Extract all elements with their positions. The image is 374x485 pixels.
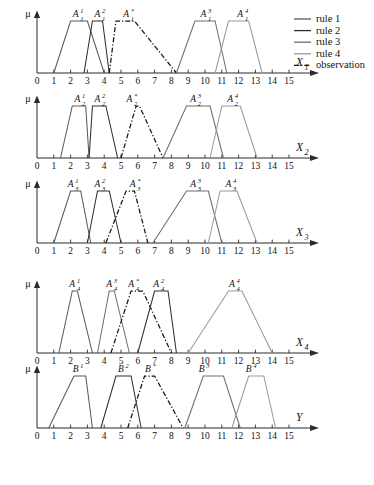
- fuzzy-set-superscript: 3: [197, 177, 202, 184]
- fuzzy-set-label: A: [189, 179, 196, 189]
- y-axis-arrow: [34, 366, 40, 374]
- membership-curve: [232, 376, 276, 428]
- fuzzy-set-label: B: [118, 364, 124, 374]
- x-axis-tick-label: 3: [85, 356, 90, 366]
- x-axis-arrow: [310, 155, 319, 161]
- x-axis-tick-label: 4: [102, 76, 107, 86]
- fuzzy-set-subscript: 1: [245, 15, 248, 22]
- x-axis-tick-label: 11: [217, 161, 226, 171]
- x-axis-variable-label: X: [295, 226, 304, 238]
- fuzzy-set-label: A: [122, 9, 129, 19]
- x-axis-tick-label: 14: [267, 161, 277, 171]
- fuzzy-set-label: B: [246, 364, 252, 374]
- membership-curve: [61, 106, 90, 158]
- panel-x3: μ0123456789101112131415X3A13A23A*3A33A43: [25, 177, 319, 256]
- x-axis-tick-label: 1: [51, 431, 56, 441]
- fuzzy-set-label: A: [127, 279, 134, 289]
- panel-x2: μ0123456789101112131415X2A12A22A*2A32A42: [25, 92, 319, 171]
- x-axis-tick-label: 8: [169, 431, 174, 441]
- x-axis-tick-label: 3: [85, 161, 90, 171]
- x-axis-tick-label: 8: [169, 356, 174, 366]
- x-axis-tick-label: 1: [51, 356, 56, 366]
- x-axis-variable-label: X: [295, 336, 304, 348]
- fuzzy-set-superscript: 4: [233, 177, 237, 184]
- fuzzy-set-superscript: *: [131, 7, 135, 14]
- fuzzy-set-label: A: [129, 179, 136, 189]
- x-axis-tick-label: 10: [200, 246, 210, 256]
- fuzzy-set-label: A: [68, 279, 75, 289]
- fuzzy-set-subscript: 3: [136, 185, 141, 192]
- mu-axis-label: μ: [25, 93, 30, 104]
- membership-curve: [97, 291, 129, 353]
- x-axis-tick-label: 7: [152, 431, 157, 441]
- x-axis-tick-label: 6: [135, 161, 140, 171]
- x-axis-tick-label: 7: [152, 161, 157, 171]
- x-axis-tick-label: 1: [51, 246, 56, 256]
- fuzzy-set-superscript: 2: [102, 177, 106, 184]
- fuzzy-set-subscript: 3: [74, 185, 79, 192]
- fuzzy-set-superscript: *: [134, 92, 138, 99]
- legend-label: observation: [316, 59, 366, 70]
- fuzzy-set-label: A: [67, 179, 74, 189]
- mu-axis-label: μ: [25, 278, 30, 289]
- fuzzy-set-label: A: [73, 94, 80, 104]
- mu-axis-label: μ: [25, 178, 30, 189]
- x-axis-tick-label: 8: [169, 161, 174, 171]
- fuzzy-set-label: A: [125, 94, 132, 104]
- fuzzy-membership-figure: μ0123456789101112131415X1A11A21A*1A31A41…: [0, 0, 374, 485]
- panel-x1: μ0123456789101112131415X1A11A21A*1A31A41: [25, 7, 319, 86]
- figure-canvas: μ0123456789101112131415X1A11A21A*1A31A41…: [0, 0, 374, 485]
- x-axis-tick-label: 11: [217, 356, 226, 366]
- x-axis-variable-subscript: 3: [304, 233, 309, 242]
- x-axis-tick-label: 2: [68, 161, 73, 171]
- x-axis-tick-label: 9: [186, 246, 191, 256]
- x-axis-variable-subscript: 2: [305, 148, 309, 157]
- x-axis-tick-label: 4: [102, 161, 107, 171]
- fuzzy-set-superscript: 1: [75, 177, 78, 184]
- x-axis-tick-label: 12: [234, 76, 244, 86]
- x-axis-tick-label: 11: [217, 431, 226, 441]
- fuzzy-set-superscript: 1: [77, 277, 80, 284]
- y-axis-arrow: [34, 181, 40, 189]
- x-axis-tick-label: 15: [284, 356, 294, 366]
- legend-label: rule 3: [316, 36, 340, 47]
- x-axis-arrow: [310, 240, 319, 246]
- fuzzy-set-label: A: [94, 179, 101, 189]
- x-axis-tick-label: 14: [267, 356, 277, 366]
- fuzzy-set-subscript: 3: [232, 185, 237, 192]
- x-axis-tick-label: 5: [119, 431, 124, 441]
- x-axis-tick-label: 10: [200, 431, 210, 441]
- membership-curve: [111, 291, 171, 353]
- fuzzy-set-superscript: 3: [205, 362, 210, 369]
- x-axis-tick-label: 9: [186, 431, 191, 441]
- mu-axis-label: μ: [25, 363, 30, 374]
- fuzzy-set-superscript: 1: [82, 92, 85, 99]
- membership-curve: [54, 21, 104, 73]
- fuzzy-set-superscript: *: [137, 177, 141, 184]
- membership-curve: [185, 376, 240, 428]
- membership-curve: [59, 291, 93, 353]
- x-axis-tick-label: 14: [267, 246, 277, 256]
- x-axis-arrow: [310, 70, 319, 76]
- x-axis-tick-label: 8: [169, 246, 174, 256]
- membership-curve: [106, 191, 148, 243]
- x-axis-tick-label: 6: [135, 431, 140, 441]
- x-axis-tick-label: 15: [284, 431, 294, 441]
- membership-curve: [121, 106, 163, 158]
- fuzzy-set-superscript: 4: [245, 7, 249, 14]
- panel-x4: μ0123456789101112131415X4A14A34A*4A24A44: [25, 277, 319, 366]
- fuzzy-set-subscript: 1: [80, 15, 83, 22]
- x-axis-tick-label: 3: [85, 431, 90, 441]
- x-axis-tick-label: 10: [200, 76, 210, 86]
- x-axis-variable-subscript: 1: [305, 63, 309, 72]
- x-axis-tick-label: 5: [119, 246, 124, 256]
- fuzzy-set-superscript: 1: [80, 7, 83, 14]
- x-axis-tick-label: 11: [217, 76, 226, 86]
- membership-curve: [153, 191, 222, 243]
- x-axis-tick-label: 2: [68, 76, 73, 86]
- x-axis-tick-label: 11: [217, 246, 226, 256]
- y-axis-arrow: [34, 96, 40, 104]
- fuzzy-set-label: A: [189, 94, 196, 104]
- x-axis-tick-label: 14: [267, 431, 277, 441]
- x-axis-tick-label: 7: [152, 246, 157, 256]
